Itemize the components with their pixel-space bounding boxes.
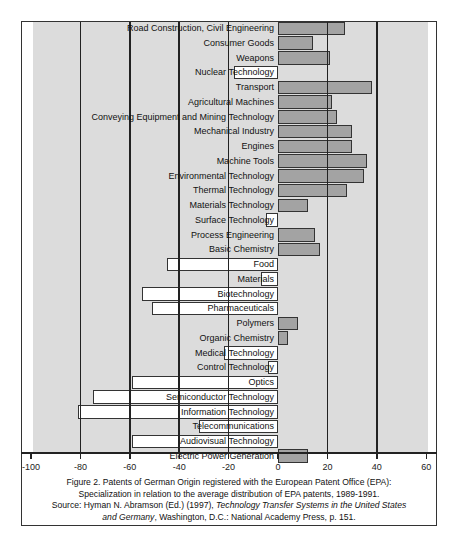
bar [278,199,308,213]
gridline [129,22,131,453]
category-label: Thermal Technology [193,183,274,197]
category-label: Information Technology [181,405,274,419]
x-tick-label: 20 [322,462,332,472]
bar [278,228,315,242]
gridline [178,22,180,453]
bar [278,169,364,183]
gridline [327,22,329,453]
bar [278,154,367,168]
x-tick [30,452,32,459]
category-label: Semiconductor Technology [166,390,274,404]
bar [278,51,330,65]
gridline [80,22,82,453]
category-label: Materials [237,272,274,286]
caption-line-1: Figure 2. Patents of German Origin regis… [21,477,437,489]
category-label: Machine Tools [217,154,274,168]
category-label: Medical Technology [195,346,274,360]
x-tick [228,452,230,459]
x-tick [179,452,181,459]
caption-line-2: Specialization in relation to the averag… [21,489,437,501]
x-tick [80,452,82,459]
category-label: Materials Technology [190,198,274,212]
caption-line-4: and Germany, Washington, D.C.: National … [21,512,437,524]
category-label: Surface Technology [195,213,274,227]
category-label: Road Construction, Civil Engineering [127,21,274,35]
category-label: Basic Chemistry [209,242,274,256]
x-tick [327,452,329,459]
bar [278,125,352,139]
category-label: Consumer Goods [203,36,274,50]
x-tick-label: -20 [222,462,235,472]
x-tick-label: 40 [372,462,382,472]
x-tick-label: 60 [421,462,431,472]
category-label: Control Technology [197,360,274,374]
bar [278,22,345,36]
category-label: Process Engineering [191,228,274,242]
bar [278,95,332,109]
x-tick [277,452,279,459]
category-label: Engines [241,139,274,153]
category-label: Biotechnology [217,287,274,301]
category-label: Transport [236,80,274,94]
category-label: Organic Chemistry [199,331,274,345]
category-label: Agricultural Machines [188,95,274,109]
category-label: Polymers [236,316,274,330]
x-tick [376,452,378,459]
x-tick-label: -100 [22,462,40,472]
x-tick-label: 0 [275,462,280,472]
bar [278,317,298,331]
caption-line-3: Source: Hyman N. Abramson (Ed.) (1997), … [21,500,437,512]
bar [278,243,320,257]
x-tick-label: -60 [123,462,136,472]
category-label: Electric Power Generation [169,449,274,463]
category-label: Telecommunications [192,419,274,433]
x-tick-label: -40 [173,462,186,472]
x-tick-label: -80 [74,462,87,472]
bar [278,184,347,198]
bar [278,36,313,50]
bar [278,110,337,124]
gridline [376,22,378,453]
category-label: Audiovisual Technology [180,434,274,448]
category-label: Pharmaceuticals [207,301,274,315]
bar [278,331,288,345]
category-label: Conveying Equipment and Mining Technolog… [92,110,274,124]
figure-caption: Figure 2. Patents of German Origin regis… [21,477,437,523]
bar [278,140,352,154]
x-tick [426,452,428,459]
bar [278,81,372,95]
category-label: Mechanical Industry [194,124,274,138]
category-label: Nuclear Technology [195,65,274,79]
category-label: Weapons [236,51,274,65]
category-label: Optics [248,375,274,389]
x-tick [129,452,131,459]
category-label: Environmental Technology [169,169,274,183]
category-label: Food [253,257,274,271]
